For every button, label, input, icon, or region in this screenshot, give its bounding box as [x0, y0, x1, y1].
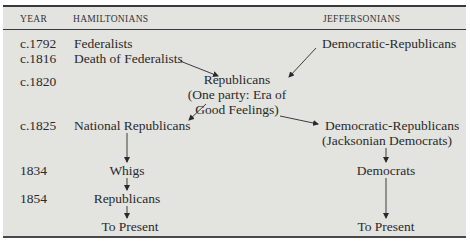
arrow-federalists-to-republicans — [180, 61, 218, 76]
arrow-to-national-republicans — [189, 104, 206, 120]
arrow-demrep-to-republicans — [289, 48, 316, 77]
lineage-arrows — [0, 0, 470, 247]
arrow-to-jacksonian — [280, 116, 318, 124]
